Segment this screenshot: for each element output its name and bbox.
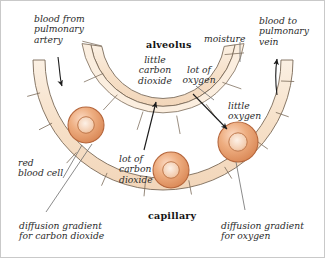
- leader-diffusion-o2: [236, 162, 245, 210]
- label-line: oxygen: [182, 74, 215, 85]
- label-line: little: [144, 54, 166, 65]
- arrow-blood-out-icon: [276, 59, 278, 95]
- label-line: blood cell: [18, 167, 63, 178]
- label-line: lot of: [187, 64, 211, 75]
- label-blood-from-pulmonary-artery: blood frompulmonaryartery: [34, 14, 85, 45]
- label-line: little: [228, 100, 250, 111]
- alveolus-capillary-diagram: blood frompulmonaryartery alveolus moist…: [0, 0, 326, 259]
- label-line: blood to: [259, 15, 297, 26]
- label-red-blood-cell: redblood cell: [18, 158, 63, 179]
- label-line: red: [18, 157, 34, 168]
- label-blood-to-pulmonary-vein: blood topulmonaryvein: [259, 16, 309, 47]
- arrow-o2-diffusion-icon: [193, 94, 227, 129]
- label-line: for oxygen: [221, 230, 270, 241]
- label-diffusion-gradient-for-carbon-dioxide: diffusion gradientfor carbon dioxide: [19, 221, 104, 242]
- label-line: carbon: [139, 64, 171, 75]
- label-line: lot of: [119, 153, 143, 164]
- red-blood-cell: [68, 107, 104, 143]
- arrow-blood-in-icon: [58, 57, 62, 86]
- label-line: pulmonary: [34, 23, 84, 34]
- label-little-oxygen: littleoxygen: [228, 101, 261, 122]
- label-capillary: capillary: [148, 211, 196, 221]
- label-line: pulmonary: [259, 25, 309, 36]
- red-blood-cell: [153, 152, 189, 188]
- red-blood-cell: [218, 122, 258, 162]
- label-diffusion-gradient-for-oxygen: diffusion gradientfor oxygen: [221, 221, 304, 242]
- label-line: diffusion gradient: [221, 220, 304, 231]
- label-line: vein: [259, 36, 278, 47]
- label-moisture: moisture: [204, 34, 245, 44]
- label-line: carbon: [119, 163, 151, 174]
- label-line: artery: [34, 34, 63, 45]
- label-line: blood from: [34, 13, 85, 24]
- label-lot-of-carbon-dioxide: lot ofcarbondioxide: [119, 154, 153, 185]
- label-line: oxygen: [228, 110, 261, 121]
- label-alveolus: alveolus: [146, 40, 192, 50]
- label-line: dioxide: [119, 174, 153, 185]
- label-lot-of-oxygen: lot ofoxygen: [174, 65, 224, 86]
- label-line: for carbon dioxide: [19, 230, 104, 241]
- label-line: dioxide: [138, 75, 172, 86]
- label-line: diffusion gradient: [19, 220, 102, 231]
